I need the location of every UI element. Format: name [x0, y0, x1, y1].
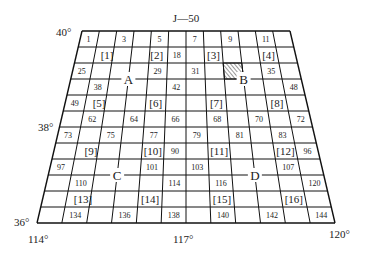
cell-number: 134 — [69, 211, 81, 220]
lat-label-bottom: 36° — [14, 216, 29, 228]
cell-number: 136 — [119, 211, 131, 220]
cell-number: 77 — [150, 131, 158, 140]
cell-number: 90 — [171, 147, 179, 156]
quadrant-letter: A — [124, 72, 134, 87]
cell-number: 120 — [308, 179, 320, 188]
quadrant-letter: C — [113, 168, 122, 183]
quadrant-letter: B — [239, 72, 248, 87]
cell-number: 25 — [78, 67, 86, 76]
cell-number: 103 — [191, 163, 203, 172]
sheet-bracket-label: [2] — [150, 49, 163, 61]
sheet-bracket-label: [15] — [213, 193, 231, 205]
cell-number: 66 — [172, 115, 180, 124]
sheet-bracket-label: [6] — [149, 97, 162, 109]
cell-number: 114 — [168, 179, 180, 188]
cell-number: 140 — [217, 211, 229, 220]
cell-number: 97 — [57, 163, 65, 172]
lon-label-left: 114° — [28, 233, 49, 245]
cell-number: 101 — [146, 163, 158, 172]
cell-number: 138 — [168, 211, 180, 220]
sheet-bracket-label: [12] — [276, 145, 294, 157]
cell-number: 64 — [130, 115, 138, 124]
cell-number: 72 — [297, 115, 305, 124]
sheet-bracket-label: [11] — [210, 145, 228, 157]
cell-number: 81 — [236, 131, 244, 140]
cell-number: 144 — [315, 211, 327, 220]
cell-number: 35 — [267, 67, 275, 76]
cell-number: 96 — [304, 147, 312, 156]
cell-number: 1 — [87, 35, 91, 44]
cell-number: 31 — [191, 67, 199, 76]
sheet-bracket-label: [16] — [285, 193, 303, 205]
cell-number: 116 — [215, 179, 227, 188]
lon-label-right: 120° — [329, 228, 350, 240]
cell-number: 68 — [213, 115, 221, 124]
sheet-bracket-label: [14] — [141, 193, 159, 205]
cell-number: 73 — [64, 131, 72, 140]
cell-number: 38 — [94, 83, 102, 92]
cell-number: 107 — [282, 163, 294, 172]
cell-number: 62 — [88, 115, 96, 124]
cell-number: 83 — [279, 131, 287, 140]
cell-number: 142 — [266, 211, 278, 220]
sheet-bracket-label: [7] — [210, 97, 223, 109]
lon-label-mid: 117° — [173, 233, 194, 245]
cell-number: 5 — [157, 35, 161, 44]
sheet-bracket-label: [5] — [93, 97, 106, 109]
cell-number: 42 — [172, 83, 180, 92]
cell-number: 49 — [71, 99, 79, 108]
cell-number: 9 — [228, 35, 232, 44]
sheet-bracket-label: [10] — [144, 145, 162, 157]
quadrant-letter: D — [250, 168, 259, 183]
sheet-bracket-label: [1] — [101, 49, 114, 61]
cell-number: 79 — [193, 131, 201, 140]
cell-number: 3 — [122, 35, 126, 44]
sheet-title: J—50 — [173, 12, 200, 24]
cell-number: 18 — [173, 51, 181, 60]
cell-number: 75 — [107, 131, 115, 140]
sheet-bracket-label: [9] — [85, 145, 98, 157]
map-grid-diagram: 1357911182529313538424849626466687072737… — [0, 0, 365, 253]
cell-number: 11 — [262, 35, 270, 44]
sheet-bracket-label: [3] — [207, 49, 220, 61]
cell-number: 110 — [75, 179, 87, 188]
sheet-bracket-label: [4] — [262, 49, 275, 61]
cell-number: 70 — [255, 115, 263, 124]
cell-number: 48 — [290, 83, 298, 92]
sheet-bracket-label: [13] — [74, 193, 92, 205]
cell-number: 7 — [193, 35, 197, 44]
lat-label-top: 40° — [56, 26, 71, 38]
lat-label-mid: 38° — [38, 121, 53, 133]
cell-number: 29 — [154, 67, 162, 76]
sheet-bracket-label: [8] — [271, 97, 284, 109]
